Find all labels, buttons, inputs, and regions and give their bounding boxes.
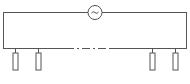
load-element — [13, 49, 18, 71]
resistor-icon — [173, 53, 178, 70]
resistor-icon — [36, 53, 41, 70]
resistor-icon — [13, 53, 18, 70]
load-element — [173, 49, 178, 71]
load-element — [36, 49, 41, 71]
load-element — [150, 49, 155, 71]
ac-source — [88, 6, 102, 20]
circuit-diagram — [0, 0, 190, 84]
resistor-icon — [150, 53, 155, 70]
